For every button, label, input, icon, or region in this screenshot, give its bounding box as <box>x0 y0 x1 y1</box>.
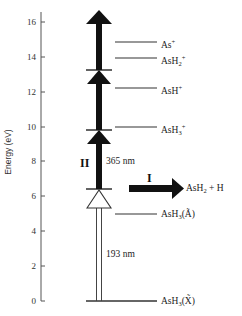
arrow-365nm-step3 <box>86 10 112 70</box>
wavelength-365nm-label: 365 nm <box>106 156 135 166</box>
tick-label-12: 12 <box>27 87 36 97</box>
arrow-channel-I <box>129 178 184 199</box>
label-ash2-plus: AsH2+ <box>161 53 185 69</box>
label-ash-plus: AsH+ <box>161 83 182 96</box>
tick-label-16: 16 <box>27 17 37 27</box>
y-axis-label: Energy (eV) <box>3 129 13 175</box>
tick-label-10: 10 <box>27 122 37 132</box>
y-ticks <box>41 22 45 301</box>
energy-level-diagram: 0 2 4 6 8 10 12 14 16 Energy (eV) <box>0 0 242 316</box>
tick-label-6: 6 <box>32 191 37 201</box>
label-ash3-x: AsH3(X̃) <box>161 296 195 309</box>
tick-label-14: 14 <box>27 52 37 62</box>
tick-label-8: 8 <box>32 156 37 166</box>
y-tick-labels: 0 2 4 6 8 10 12 14 16 <box>27 17 37 306</box>
arrow-365nm-step2 <box>87 70 111 130</box>
tick-label-4: 4 <box>32 226 37 236</box>
tick-label-2: 2 <box>32 261 37 271</box>
channel-II-label: II <box>80 156 90 170</box>
channel-I-label: I <box>147 171 152 185</box>
label-ash3-a: AsH3(Ã) <box>161 209 195 222</box>
label-product-ash2-h: AsH2 + H <box>186 183 224 196</box>
wavelength-193nm-label: 193 nm <box>106 249 135 259</box>
label-ash3-plus: AsH3+ <box>161 122 185 138</box>
arrow-193nm-open <box>87 190 111 301</box>
tick-label-0: 0 <box>32 296 37 306</box>
label-as-plus: As+ <box>161 37 175 50</box>
